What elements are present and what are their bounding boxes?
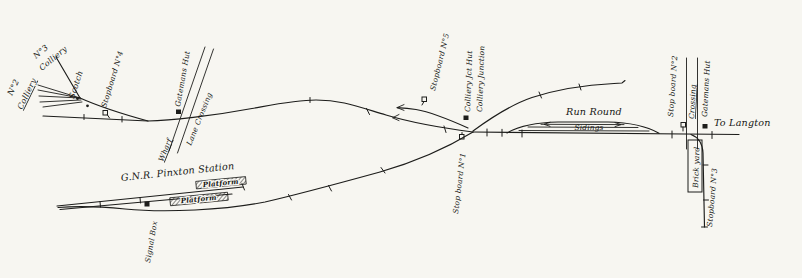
tracks: [38, 57, 739, 227]
label-scotch: Scotch: [67, 69, 84, 99]
diagram-canvas: N°2 Colliery N°3 Colliery Scotch Stopboa…: [0, 0, 802, 278]
label-signal-box: Signal Box: [143, 220, 159, 264]
label-gatemans-hut-east: Gatemans Hut: [700, 60, 712, 117]
main-line: [473, 132, 739, 135]
label-platform-lower: Platform: [179, 193, 217, 206]
gatemans-hut-west-icon: [176, 110, 181, 115]
stopboard5-icon: [422, 97, 427, 105]
label-stopboard4: Stopboard N°4: [99, 50, 125, 109]
scotch-block-dot: [86, 104, 89, 107]
label-stopboard1: Stop board N°1: [451, 152, 467, 214]
label-stopboard3: Stopboard N°3: [705, 168, 719, 228]
label-to-langton: To Langton: [714, 117, 771, 128]
label-stopboard5: Stopboard N°5: [428, 32, 451, 91]
label-run-round: Run Round: [565, 106, 622, 117]
label-colliery-jct-hut: Colliery Jct Hut: [463, 50, 474, 112]
label-crossing: Crossing: [687, 84, 698, 119]
fan-connection: [80, 98, 148, 121]
no5-headshunt: [397, 108, 468, 128]
gatemans-hut-east-icon: [703, 124, 708, 129]
label-sidings: Sidings: [574, 123, 603, 132]
track-diagram: N°2 Colliery N°3 Colliery Scotch Stopboa…: [0, 0, 802, 278]
label-colliery-junction: Colliery Junction: [475, 46, 486, 113]
label-wharf: Wharf: [157, 136, 175, 163]
label-stopboard2: Stop board N°2: [666, 55, 679, 117]
stopboard2-icon: [681, 123, 686, 132]
label-gatemans-hut-west: Gatemans Hut: [173, 50, 192, 107]
label-brick-yard: Brick yard: [691, 147, 701, 189]
colliery-jct-hut-icon: [464, 116, 469, 121]
signal-box-icon: [145, 202, 150, 207]
label-no2: N°2: [5, 78, 21, 98]
label-lane-crossing: Lane Crossing: [184, 91, 214, 148]
stopboard4-icon: [103, 111, 110, 119]
